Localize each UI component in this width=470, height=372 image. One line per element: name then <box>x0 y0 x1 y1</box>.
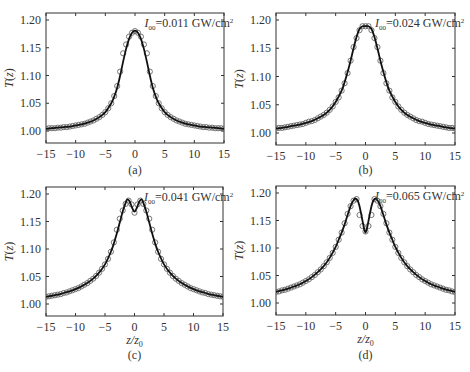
y-tick-label: 1.00 <box>250 296 271 310</box>
theory-curve <box>276 198 455 292</box>
panel-c: −15−10−50510151.001.051.101.151.20T(z)z/… <box>2 187 234 362</box>
x-tick-label: 0 <box>132 147 138 161</box>
axes-frame <box>46 187 223 316</box>
y-tick-label: 1.10 <box>20 242 41 256</box>
x-tick-label: −5 <box>329 149 342 163</box>
y-tick-label: 1.20 <box>250 13 271 27</box>
panel-label: (a) <box>128 163 141 177</box>
x-tick-label: 10 <box>188 320 200 334</box>
experiment-markers <box>273 196 457 294</box>
x-tick-label: 15 <box>449 319 461 333</box>
axes-frame <box>276 13 455 145</box>
y-tick-label: 1.00 <box>20 124 41 138</box>
x-tick-label: −10 <box>66 320 85 334</box>
x-tick-label: 15 <box>449 149 461 163</box>
y-tick-label: 1.10 <box>20 69 41 83</box>
y-tick-label: 1.20 <box>250 186 271 200</box>
panel-label: (c) <box>128 348 141 362</box>
panel-a: −15−10−50510151.001.051.101.151.20T(z)(a… <box>2 13 234 177</box>
y-tick-label: 1.15 <box>20 215 41 229</box>
y-axis-label: T(z) <box>232 69 246 88</box>
x-tick-label: −15 <box>267 149 286 163</box>
panel-d: −15−10−50510151.001.051.101.151.20T(z)z/… <box>232 186 465 362</box>
x-tick-label: −5 <box>329 319 342 333</box>
intensity-annotation: I00=0.024 GW/cm2 <box>374 16 465 32</box>
x-tick-label: 0 <box>363 319 369 333</box>
x-tick-label: −15 <box>37 320 56 334</box>
panel-b: −15−10−50510151.001.051.101.151.20T(z)(b… <box>232 13 465 177</box>
y-tick-label: 1.20 <box>20 187 41 201</box>
experiment-markers <box>273 24 457 131</box>
x-tick-label: −15 <box>37 147 56 161</box>
experiment-markers <box>43 29 226 132</box>
y-tick-label: 1.15 <box>250 41 271 55</box>
x-tick-label: −10 <box>296 149 315 163</box>
x-tick-label: 10 <box>419 149 431 163</box>
panel-label: (b) <box>359 163 373 177</box>
x-tick-label: 10 <box>419 319 431 333</box>
x-tick-label: 15 <box>218 147 230 161</box>
x-tick-label: −5 <box>99 147 112 161</box>
y-tick-label: 1.05 <box>20 96 41 110</box>
y-axis-label: T(z) <box>2 68 16 87</box>
theory-curve <box>46 199 223 296</box>
x-axis-label: z/z0 <box>125 333 143 349</box>
y-tick-label: 1.10 <box>250 241 271 255</box>
y-axis-label: T(z) <box>2 242 16 261</box>
intensity-annotation: I00=0.041 GW/cm2 <box>143 190 234 206</box>
x-tick-label: 5 <box>162 147 168 161</box>
theory-curve <box>46 31 224 129</box>
intensity-annotation: I00=0.065 GW/cm2 <box>374 189 465 205</box>
x-tick-label: 5 <box>392 319 398 333</box>
experiment-markers <box>43 198 225 299</box>
x-tick-label: 10 <box>188 147 200 161</box>
x-axis-label: z/z0 <box>356 332 374 348</box>
y-tick-label: 1.00 <box>250 126 271 140</box>
x-tick-label: −15 <box>267 319 286 333</box>
y-tick-label: 1.05 <box>20 270 41 284</box>
x-tick-label: 15 <box>217 320 229 334</box>
x-tick-label: −10 <box>66 147 85 161</box>
x-tick-label: 0 <box>363 149 369 163</box>
x-tick-label: −10 <box>296 319 315 333</box>
panel-label: (d) <box>359 348 373 362</box>
intensity-annotation: I00=0.011 GW/cm2 <box>143 16 233 32</box>
y-tick-label: 1.15 <box>20 41 41 55</box>
axes-frame <box>276 186 455 315</box>
figure-canvas: −15−10−50510151.001.051.101.151.20T(z)(a… <box>0 0 470 372</box>
y-tick-label: 1.05 <box>250 98 271 112</box>
y-axis-label: T(z) <box>232 241 246 260</box>
theory-curve <box>276 26 455 128</box>
x-tick-label: 5 <box>161 320 167 334</box>
y-tick-label: 1.20 <box>20 13 41 27</box>
x-tick-label: −5 <box>99 320 112 334</box>
x-tick-label: 5 <box>392 149 398 163</box>
y-tick-label: 1.15 <box>250 214 271 228</box>
x-tick-label: 0 <box>132 320 138 334</box>
y-tick-label: 1.10 <box>250 70 271 84</box>
y-tick-label: 1.05 <box>250 269 271 283</box>
y-tick-label: 1.00 <box>20 297 41 311</box>
